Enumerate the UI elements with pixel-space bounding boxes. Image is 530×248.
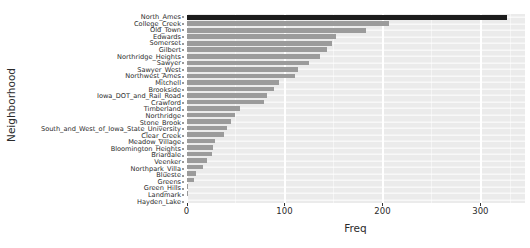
bar — [187, 74, 296, 79]
bar-row — [187, 196, 525, 203]
bar — [187, 21, 390, 26]
y-axis-tick-mark — [182, 201, 184, 202]
gridline-horizontal — [187, 141, 525, 142]
bar — [187, 191, 188, 196]
y-axis-tick-mark — [182, 56, 184, 57]
y-axis-tick-mark — [182, 89, 184, 90]
gridline-horizontal — [187, 115, 525, 116]
plot-panel — [187, 14, 525, 203]
bar — [187, 28, 366, 33]
y-axis-tick-mark — [182, 83, 184, 84]
gridline-horizontal — [187, 147, 525, 148]
bar — [187, 80, 279, 85]
y-axis-tick-mark — [182, 162, 184, 163]
bar — [187, 119, 231, 124]
gridline-horizontal — [187, 128, 525, 129]
y-axis-tick-mark — [182, 149, 184, 150]
gridline-horizontal — [187, 154, 525, 155]
bar — [187, 139, 215, 144]
bar — [187, 15, 507, 20]
bar — [187, 54, 320, 59]
bar — [187, 93, 267, 98]
gridline-horizontal — [187, 121, 525, 122]
bar — [187, 171, 197, 176]
y-axis-tick: Hayden_Lake — [22, 199, 184, 206]
x-axis-tick-label: 100 — [276, 206, 292, 216]
gridline-horizontal — [187, 180, 525, 181]
y-axis-tick-mark — [182, 23, 184, 24]
bar — [187, 41, 333, 46]
y-axis-tick-labels: North_AmesCollege_CreekOld_TownEdwardsSo… — [22, 14, 184, 203]
y-axis-tick-mark — [182, 109, 184, 110]
y-axis-tick-mark — [182, 70, 184, 71]
bar — [187, 126, 227, 131]
gridline-horizontal — [187, 173, 525, 174]
y-axis-tick-mark — [182, 142, 184, 143]
y-axis-tick-mark — [182, 103, 184, 104]
y-axis-tick-mark — [182, 135, 184, 136]
y-axis-title: Neighborhood — [0, 0, 22, 210]
y-axis-tick-mark — [182, 182, 184, 183]
bar — [187, 178, 195, 183]
y-axis-tick-mark — [182, 168, 184, 169]
y-axis-tick-mark — [182, 195, 184, 196]
y-axis-tick-mark — [182, 155, 184, 156]
gridline-horizontal — [187, 134, 525, 135]
gridline-horizontal — [187, 160, 525, 161]
y-axis-tick-label: Hayden_Lake — [137, 199, 184, 206]
y-axis-tick-mark — [182, 116, 184, 117]
y-axis-tick-mark — [182, 175, 184, 176]
bar — [187, 61, 309, 66]
bar — [187, 47, 327, 52]
y-axis-tick-mark — [182, 96, 184, 97]
y-axis-title-text: Neighborhood — [5, 68, 17, 142]
bar — [187, 67, 299, 72]
gridline-horizontal — [187, 167, 525, 168]
bar — [187, 152, 212, 157]
y-axis-tick-mark — [182, 17, 184, 18]
y-axis-tick-mark — [182, 63, 184, 64]
bar — [187, 145, 213, 150]
y-axis-tick-mark — [182, 76, 184, 77]
bar — [187, 100, 264, 105]
y-axis-tick-mark — [182, 50, 184, 51]
y-axis-tick-mark — [182, 188, 184, 189]
gridline-horizontal — [187, 199, 525, 200]
bar — [187, 87, 274, 92]
y-axis-tick-mark — [182, 43, 184, 44]
x-axis-tick-label: 0 — [184, 206, 189, 216]
y-axis-tick-mark — [182, 129, 184, 130]
x-axis-tick-label: 200 — [374, 206, 390, 216]
y-axis-tick-mark — [182, 37, 184, 38]
bar — [187, 184, 189, 189]
gridline-horizontal — [187, 193, 525, 194]
bar — [187, 158, 208, 163]
bars-layer — [187, 14, 525, 203]
bar — [187, 34, 337, 39]
bar — [187, 165, 204, 170]
gridline-horizontal — [187, 186, 525, 187]
bar — [187, 132, 224, 137]
bar — [187, 106, 241, 111]
y-axis-tick-mark — [182, 30, 184, 31]
bar — [187, 113, 235, 118]
x-axis-title: Freq — [187, 222, 525, 234]
x-axis-tick-labels: 0100200300 — [187, 206, 525, 218]
x-axis-tick-label: 300 — [472, 206, 488, 216]
bar-chart: Neighborhood North_AmesCollege_CreekOld_… — [0, 0, 530, 248]
y-axis-tick-mark — [182, 122, 184, 123]
